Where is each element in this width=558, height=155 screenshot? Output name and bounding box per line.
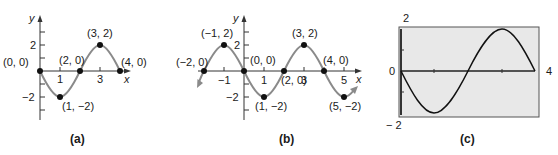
figure: y x 2 −2 1 3 (0, 0) (1, −2) (2, 0) (3, 2… (0, 0, 558, 155)
y-axis-arrow (38, 15, 43, 22)
point-label-4-0: (4, 0) (323, 54, 349, 66)
point-label-1-neg2: (1, −2) (255, 100, 287, 112)
x-tick-1: 1 (261, 74, 267, 86)
point-label-neg2-0: (−2, 0) (176, 56, 208, 68)
point-label-2-0: (2, 0) (59, 54, 85, 66)
y-tick-neg2: −2 (22, 91, 35, 103)
x-tick-5: 5 (341, 74, 347, 86)
point-label-0-0: (0, 0) (250, 54, 276, 66)
panel-b: y x 2 −2 −1 1 3 5 (−2, 0) (−1, 2) (0, 0)… (176, 12, 362, 146)
x-axis-label: x (355, 73, 362, 85)
x-tick-3: 3 (97, 73, 103, 85)
y-tick-neg2: −2 (226, 91, 239, 103)
y-tick-2: 2 (30, 39, 36, 51)
point-label-3-2: (3, 2) (292, 27, 318, 39)
xmin-label: 0 (389, 65, 395, 77)
x-tick-neg1: −1 (218, 74, 231, 86)
x-axis-label: x (123, 73, 130, 85)
y-axis-arrow (242, 15, 247, 22)
xmax-label: 4 (546, 65, 552, 77)
point-label-5-neg2: (5, −2) (329, 100, 361, 112)
y-axis-label: y (232, 12, 240, 24)
caption-c: (c) (460, 132, 475, 146)
y-tick-2: 2 (234, 39, 240, 51)
ymax-label: 2 (403, 12, 409, 24)
ymin-label: − 2 (386, 119, 402, 131)
panel-c: 2 − 2 0 4 (c) (386, 12, 552, 146)
point-label-4-0: (4, 0) (121, 56, 147, 68)
point-label-2-0: (2, 0) (281, 74, 307, 86)
point-label-3-2: (3, 2) (87, 27, 113, 39)
x-tick-1: 1 (57, 73, 63, 85)
panel-a: y x 2 −2 1 3 (0, 0) (1, −2) (2, 0) (3, 2… (3, 12, 147, 146)
y-axis-label: y (28, 12, 36, 24)
point-label-0-0: (0, 0) (3, 56, 29, 68)
caption-a: (a) (70, 132, 85, 146)
point-label-1-neg2: (1, −2) (62, 100, 94, 112)
point-label-neg1-2: (−1, 2) (201, 27, 233, 39)
caption-b: (b) (279, 132, 294, 146)
